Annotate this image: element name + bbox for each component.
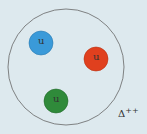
quark-label-blue: u (38, 35, 44, 46)
quark-label-red: u (93, 51, 99, 62)
particle-label: Δ++ (118, 106, 139, 119)
particle-charge: ++ (125, 106, 138, 115)
quark-label-green: u (53, 93, 59, 104)
